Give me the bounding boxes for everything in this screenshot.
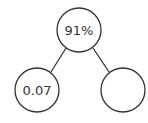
node-whole: 91%: [57, 8, 101, 52]
edge-whole-to-right: [93, 48, 109, 72]
edge-whole-to-left: [51, 48, 66, 72]
node-part-left-label: 0.07: [23, 83, 52, 98]
node-whole-label: 91%: [65, 23, 94, 38]
number-bond-diagram: 91% 0.07: [0, 0, 148, 123]
node-part-right: [101, 68, 145, 112]
node-part-left: 0.07: [15, 68, 59, 112]
